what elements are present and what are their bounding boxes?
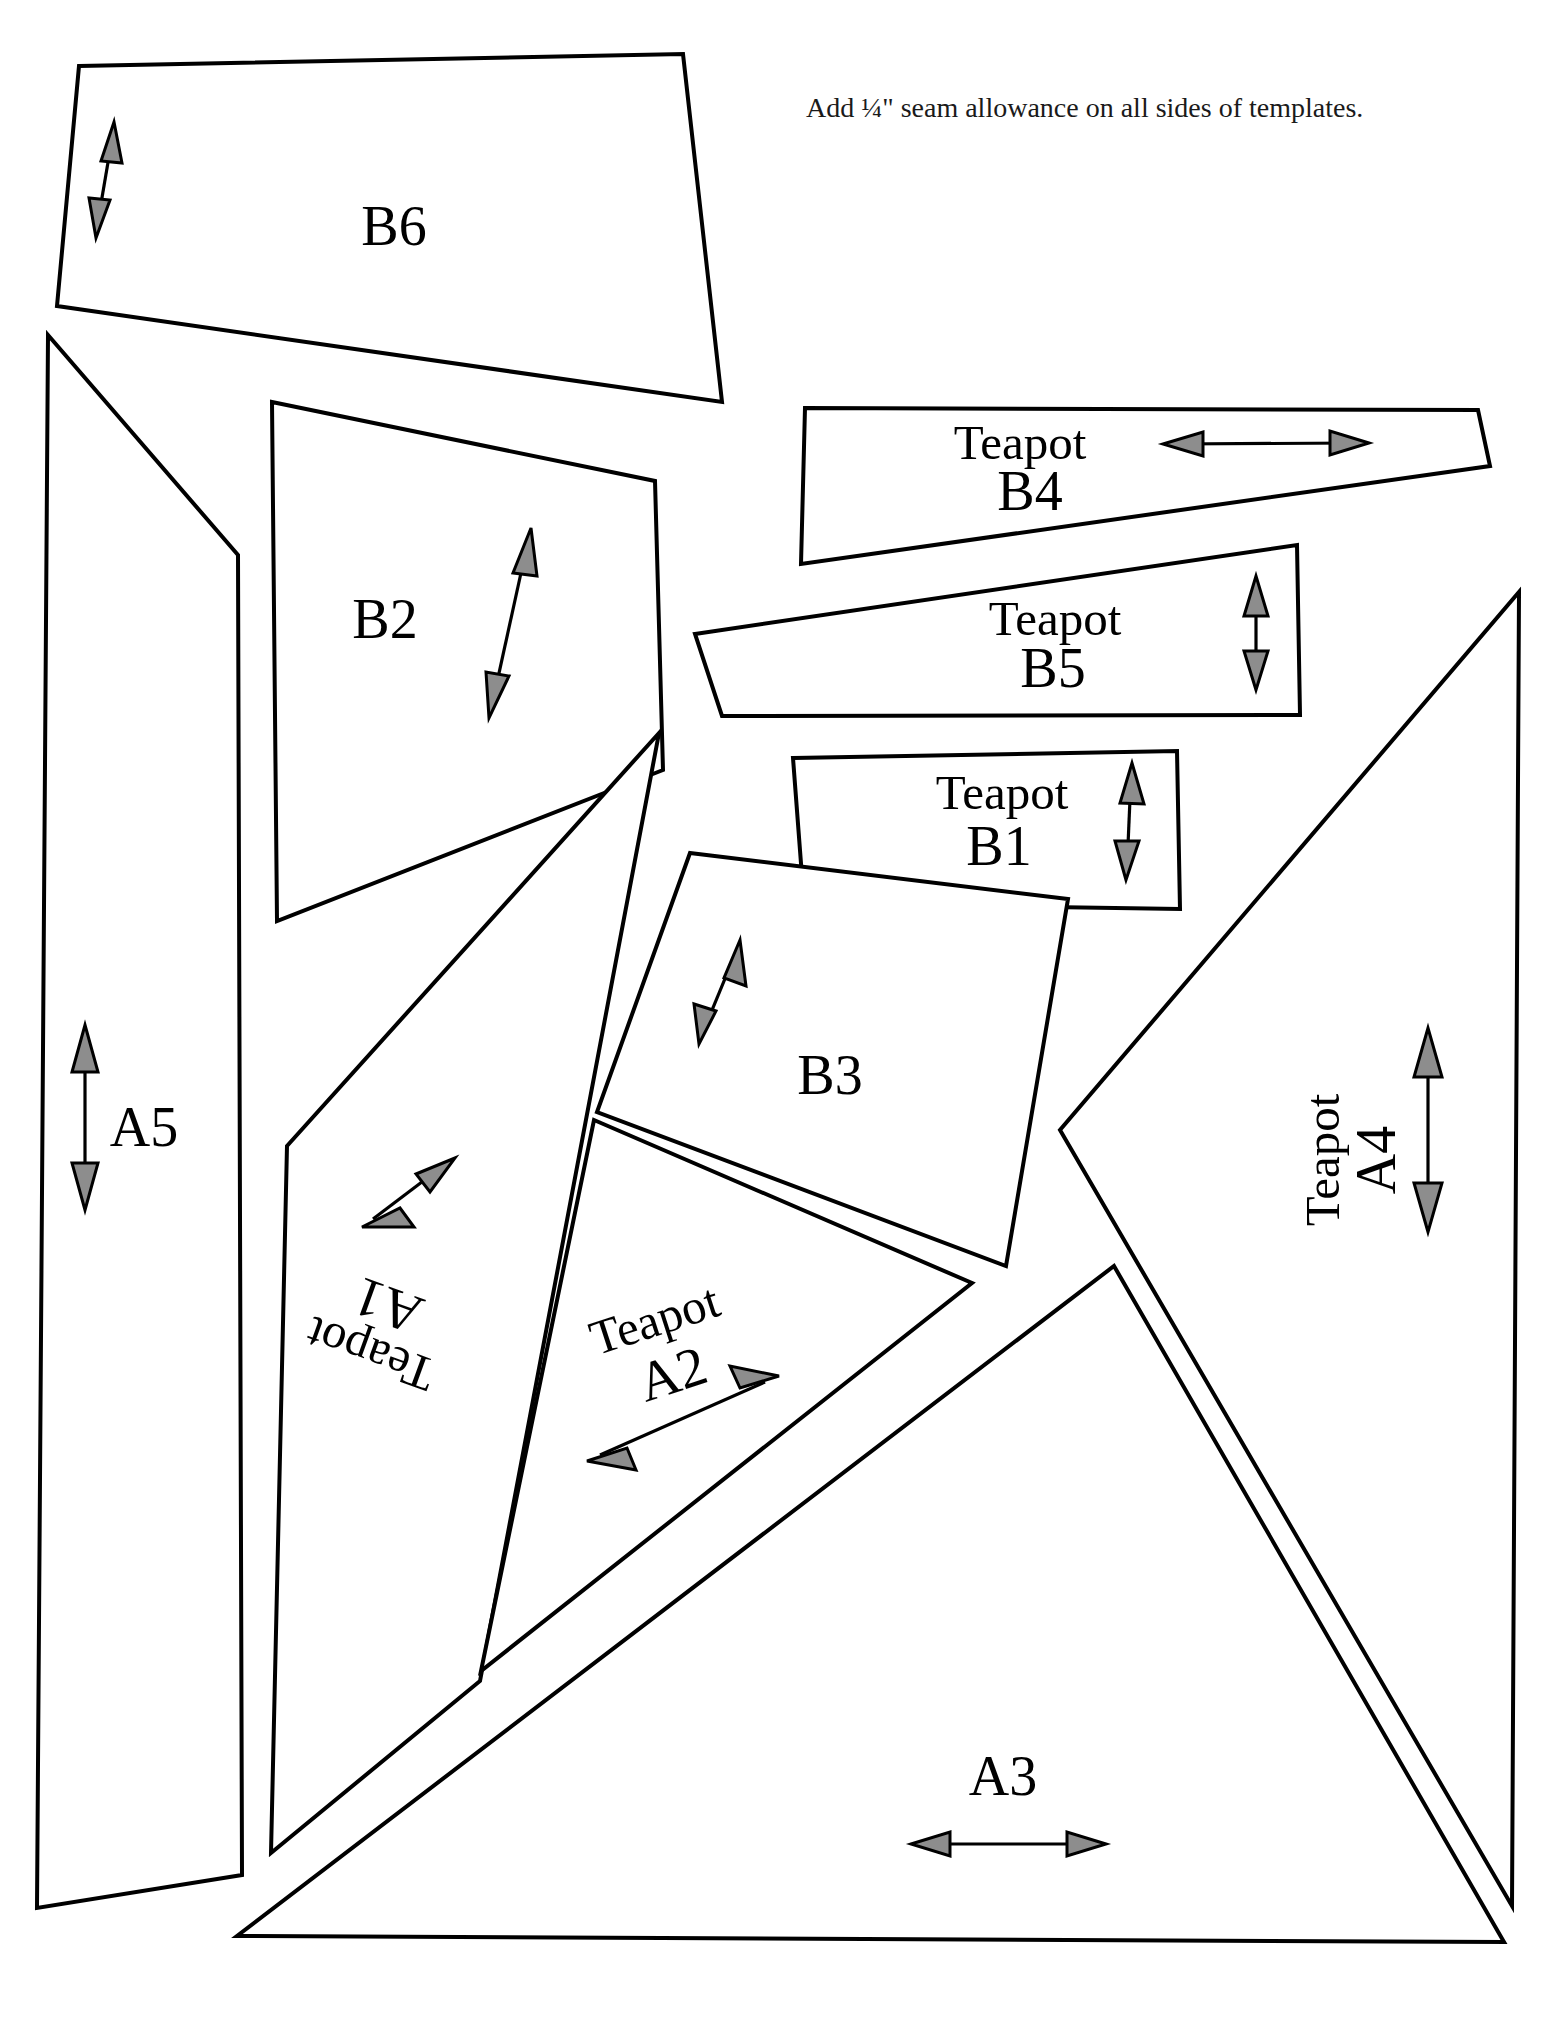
piece-label-b2: B2 [352, 588, 417, 650]
piece-label-a5: A5 [110, 1096, 178, 1158]
piece-outline-b4 [801, 408, 1490, 564]
piece-label-b4-number: B4 [997, 460, 1062, 522]
template-sheet-page: Add ¼" seam allowance on all sides of te… [0, 0, 1552, 2031]
piece-label-a4-prefix: Teapot [1295, 1093, 1350, 1226]
seam-allowance-instruction: Add ¼" seam allowance on all sides of te… [806, 92, 1363, 123]
piece-label-a4-number: A4 [1345, 1126, 1407, 1194]
piece-label-b5-number: B5 [1020, 637, 1085, 699]
quilt-template-diagram: Add ¼" seam allowance on all sides of te… [0, 0, 1552, 2031]
piece-label-b1-number: B1 [966, 815, 1031, 877]
piece-label-b1-prefix: Teapot [936, 765, 1069, 820]
piece-label-b6: B6 [361, 195, 426, 257]
piece-label-a3: A3 [969, 1745, 1037, 1807]
piece-label-b3: B3 [797, 1044, 862, 1106]
